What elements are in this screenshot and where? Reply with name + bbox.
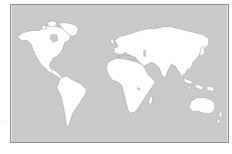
lake-victoria	[138, 88, 140, 90]
world-map	[10, 4, 229, 143]
world-map-svg	[11, 5, 228, 142]
caspian-sea	[144, 50, 146, 56]
stray-mark	[3, 121, 4, 122]
